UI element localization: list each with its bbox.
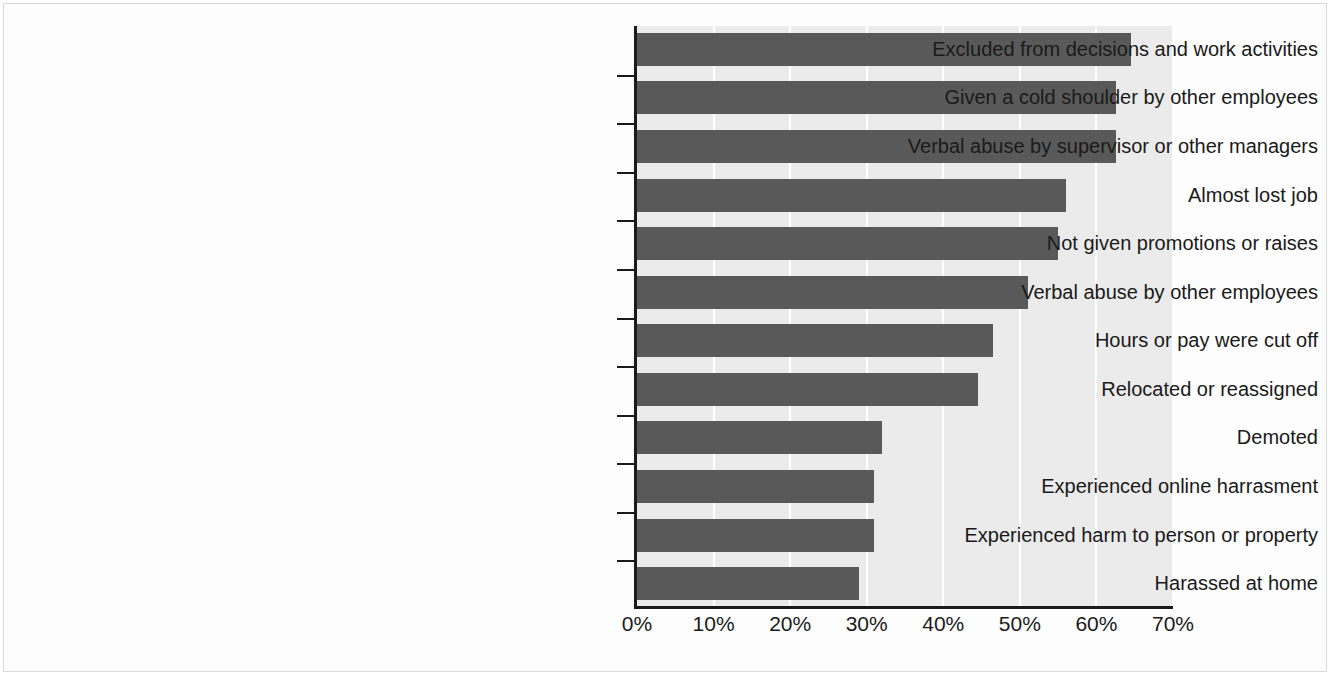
- y-axis-tick-label: Experienced online harrasment: [711, 470, 1331, 503]
- y-axis-tick-mark: [617, 366, 637, 368]
- y-axis-tick-label: Verbal abuse by other employees: [711, 276, 1331, 309]
- y-axis-tick-label: Not given promotions or raises: [711, 227, 1331, 260]
- y-axis-tick-label: Excluded from decisions and work activit…: [711, 33, 1331, 66]
- y-axis-tick-mark: [617, 220, 637, 222]
- y-axis-tick-label: Harassed at home: [711, 567, 1331, 600]
- x-axis-tick-label: 70%: [1128, 612, 1218, 636]
- y-axis-tick-mark: [617, 318, 637, 320]
- y-axis-tick-label: Relocated or reassigned: [711, 373, 1331, 406]
- y-axis-tick-mark: [617, 75, 637, 77]
- y-axis-tick-mark: [617, 123, 637, 125]
- y-axis-tick-mark: [617, 172, 637, 174]
- y-axis-tick-label: Given a cold shoulder by other employees: [711, 81, 1331, 114]
- y-axis-tick-mark: [617, 269, 637, 271]
- y-axis-tick-mark: [617, 512, 637, 514]
- y-axis-tick-mark: [617, 560, 637, 562]
- x-axis-line: [634, 606, 1173, 609]
- y-axis-tick-label: Almost lost job: [711, 179, 1331, 212]
- y-axis-tick-label: Demoted: [711, 421, 1331, 454]
- y-axis-tick-label: Experienced harm to person or property: [711, 519, 1331, 552]
- y-axis-tick-mark: [617, 463, 637, 465]
- chart-figure: Excluded from decisions and work activit…: [0, 0, 1331, 676]
- y-axis-tick-label: Hours or pay were cut off: [711, 324, 1331, 357]
- y-axis-tick-label: Verbal abuse by supervisor or other mana…: [711, 130, 1331, 163]
- y-axis-tick-mark: [617, 415, 637, 417]
